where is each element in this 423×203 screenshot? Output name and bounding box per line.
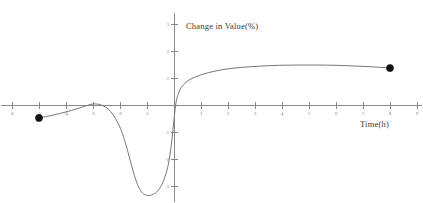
y-tick-label: 3 (167, 22, 170, 27)
x-tick-label: 5 (308, 111, 311, 116)
data-point-marker (386, 64, 393, 71)
chart-figure: -6-5-4-3-2-1123456789-3-2-1123 Change in… (0, 0, 423, 203)
y-tick-label: 1 (167, 76, 169, 81)
x-tick-label: 6 (335, 111, 338, 116)
y-tick-label: -3 (165, 184, 169, 189)
x-tick-label: -1 (145, 111, 149, 116)
x-tick-label: 1 (200, 111, 202, 116)
x-tick-label: 2 (227, 111, 229, 116)
axes-group (1, 13, 422, 202)
data-markers-group (35, 64, 393, 121)
y-axis-title: Change in Value(%) (186, 21, 258, 31)
y-tick-label: -1 (165, 130, 169, 135)
x-tick-label: 3 (254, 111, 257, 116)
y-tick-label: 2 (167, 49, 169, 54)
x-tick-label: -3 (91, 111, 95, 116)
x-tick-label: -2 (118, 111, 122, 116)
y-tick-label: -2 (165, 157, 169, 162)
x-tick-label: -6 (10, 111, 14, 116)
data-series-line (39, 65, 390, 196)
data-point-marker (35, 114, 42, 121)
x-tick-label: 8 (389, 111, 392, 116)
x-tick-label: 4 (281, 111, 284, 116)
data-curve-group (39, 65, 390, 196)
x-axis-title: Time(h) (360, 119, 389, 129)
x-tick-label: 7 (362, 111, 365, 116)
x-tick-label: 9 (416, 111, 419, 116)
